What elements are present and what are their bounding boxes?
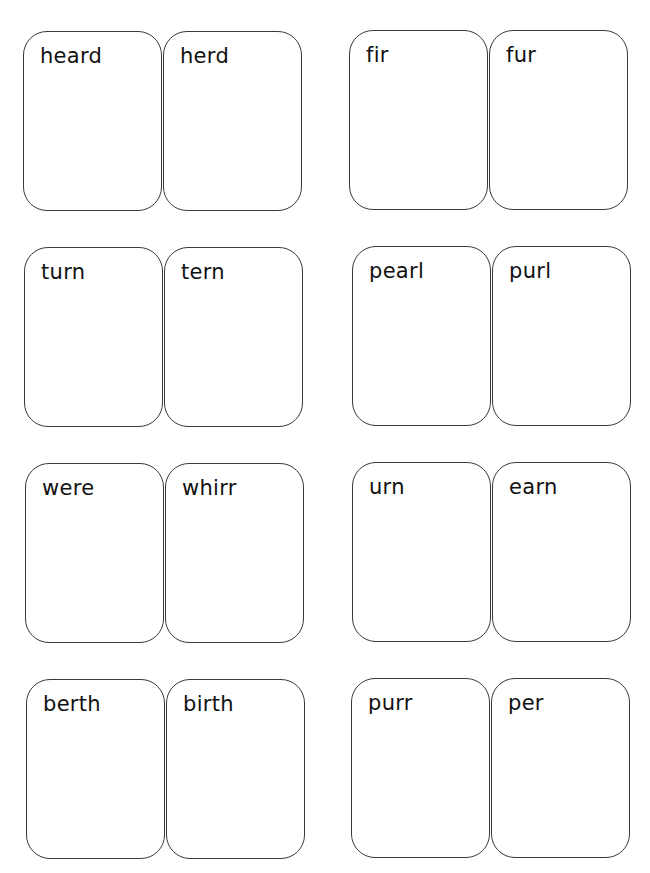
word-label: fur <box>506 43 536 68</box>
word-label: urn <box>369 475 405 500</box>
homophone-pair-turn-tern: turn tern <box>24 247 303 427</box>
homophone-pair-purr-per: purr per <box>351 678 630 858</box>
word-card[interactable]: purr <box>351 678 490 858</box>
word-label: per <box>508 691 544 716</box>
word-card[interactable]: fir <box>349 30 488 210</box>
homophone-pair-pearl-purl: pearl purl <box>352 246 631 426</box>
word-label: heard <box>40 44 102 69</box>
word-card[interactable]: heard <box>23 31 162 211</box>
word-card[interactable]: purl <box>492 246 631 426</box>
word-card[interactable]: turn <box>24 247 163 427</box>
word-card[interactable]: were <box>25 463 164 643</box>
word-card[interactable]: berth <box>26 679 165 859</box>
word-label: fir <box>366 43 389 68</box>
homophone-pair-fir-fur: fir fur <box>349 30 628 210</box>
word-label: birth <box>183 692 234 717</box>
word-card[interactable]: pearl <box>352 246 491 426</box>
word-label: tern <box>181 260 225 285</box>
word-label: herd <box>180 44 229 69</box>
word-label: earn <box>509 475 558 500</box>
homophone-pair-urn-earn: urn earn <box>352 462 631 642</box>
homophone-pair-berth-birth: berth birth <box>26 679 305 859</box>
word-card[interactable]: herd <box>163 31 302 211</box>
word-card[interactable]: fur <box>489 30 628 210</box>
word-label: purr <box>368 691 413 716</box>
word-card[interactable]: tern <box>164 247 303 427</box>
word-label: whirr <box>182 476 237 501</box>
word-label: berth <box>43 692 101 717</box>
word-card[interactable]: whirr <box>165 463 304 643</box>
homophone-pair-were-whirr: were whirr <box>25 463 304 643</box>
word-card[interactable]: birth <box>166 679 305 859</box>
word-label: turn <box>41 260 85 285</box>
word-card[interactable]: per <box>491 678 630 858</box>
homophone-pair-heard-herd: heard herd <box>23 31 302 211</box>
word-label: pearl <box>369 259 424 284</box>
word-label: purl <box>509 259 551 284</box>
word-label: were <box>42 476 94 501</box>
word-card[interactable]: urn <box>352 462 491 642</box>
word-card[interactable]: earn <box>492 462 631 642</box>
